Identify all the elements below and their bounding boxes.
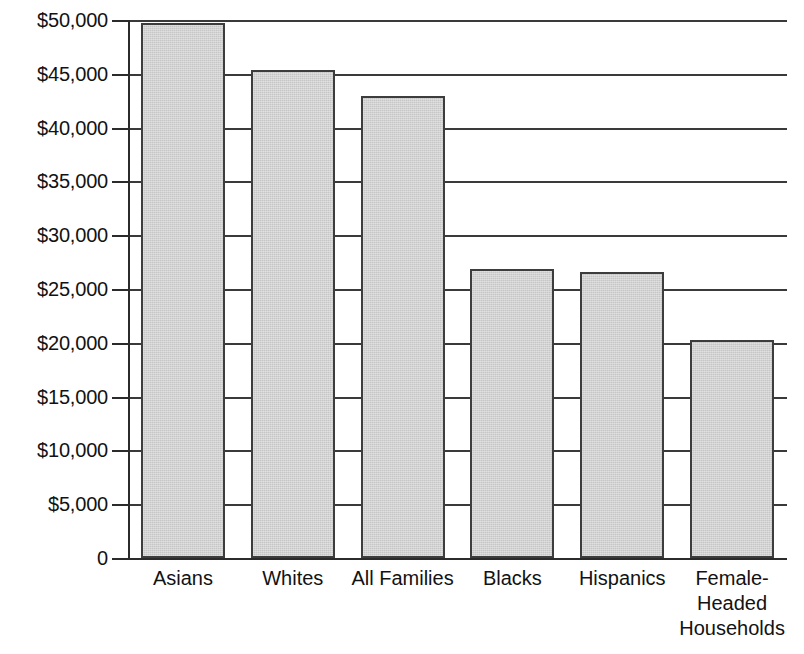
y-axis-tick-label: $45,000	[0, 64, 108, 84]
y-axis-tick-mark	[112, 181, 128, 183]
bar	[690, 340, 774, 558]
y-axis-tick-mark	[112, 20, 128, 22]
x-axis-category-label-line: Households	[657, 616, 804, 641]
y-axis-tick-label: $15,000	[0, 387, 108, 407]
bar-series	[128, 20, 787, 558]
y-axis-tick-mark	[112, 128, 128, 130]
y-axis-tick-label: $20,000	[0, 333, 108, 353]
plot-area	[128, 20, 787, 558]
x-axis-category-labels: AsiansWhitesAll FamiliesBlacksHispanicsF…	[128, 566, 787, 654]
y-axis-tick-mark	[112, 558, 128, 560]
x-axis-category-label-line: Headed	[657, 591, 804, 616]
y-axis-tick-label: $35,000	[0, 171, 108, 191]
bar	[470, 269, 554, 558]
y-axis-tick-labels: $50,000$45,000$40,000$35,000$30,000$25,0…	[0, 0, 108, 654]
bar	[251, 70, 335, 559]
bar	[580, 272, 664, 558]
bar-chart: $50,000$45,000$40,000$35,000$30,000$25,0…	[0, 0, 804, 654]
y-axis-tick-label: $50,000	[0, 10, 108, 30]
bar	[361, 96, 445, 558]
y-axis-tick-mark	[112, 450, 128, 452]
y-axis-tick-mark	[112, 504, 128, 506]
y-axis-tick-label: $5,000	[0, 494, 108, 514]
y-axis-tick-label: $30,000	[0, 225, 108, 245]
y-axis-tick-mark	[112, 74, 128, 76]
y-axis-tick-mark	[112, 235, 128, 237]
x-axis-category-label-line: Female-	[657, 566, 804, 591]
bar	[141, 23, 225, 558]
x-axis-baseline	[128, 558, 787, 560]
y-axis-tick-mark	[112, 289, 128, 291]
y-axis-tick-label: $40,000	[0, 118, 108, 138]
y-axis-tick-label: $25,000	[0, 279, 108, 299]
y-axis-tick-label: 0	[0, 548, 108, 568]
y-axis-tick-label: $10,000	[0, 440, 108, 460]
y-axis-tick-mark	[112, 343, 128, 345]
y-axis-tick-mark	[112, 397, 128, 399]
x-axis-category-label: Female-HeadedHouseholds	[657, 566, 804, 641]
